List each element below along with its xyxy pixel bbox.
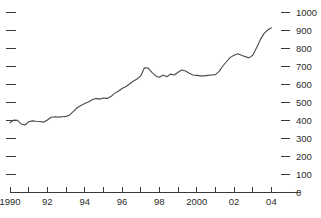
y-tick-label-700: 700	[296, 61, 312, 72]
y-tick-label-800: 800	[296, 43, 312, 54]
x-tick-label-1990: 1990	[0, 196, 21, 207]
x-tick-label-1994: 94	[79, 196, 90, 207]
chart-container: 01002003004005006007008009001000 1990929…	[0, 0, 321, 218]
x-tick-label-1998: 98	[154, 196, 165, 207]
y-tick-label-300: 300	[296, 133, 312, 144]
y-tick-label-500: 500	[296, 97, 312, 108]
x-tick-label-1992: 92	[42, 196, 53, 207]
y-tick-label-200: 200	[296, 151, 312, 162]
x-tick-label-2000: 2000	[186, 196, 207, 207]
line-chart: 01002003004005006007008009001000 1990929…	[0, 0, 321, 218]
y-tick-label-600: 600	[296, 79, 312, 90]
data-series-line	[10, 28, 271, 125]
right-axis-tick-labels: 01002003004005006007008009001000	[296, 7, 317, 198]
x-tick-label-2002: 02	[229, 196, 240, 207]
y-tick-label-1000: 1000	[296, 7, 317, 18]
x-axis-ticks	[10, 187, 271, 192]
x-tick-label-2004: 04	[266, 196, 277, 207]
left-axis-ticks	[6, 12, 16, 174]
x-tick-label-1996: 96	[117, 196, 128, 207]
x-axis-tick-labels: 19909294969820000204	[0, 196, 277, 207]
y-tick-label-900: 900	[296, 25, 312, 36]
right-axis-ticks	[281, 12, 290, 192]
y-tick-label-400: 400	[296, 115, 312, 126]
y-tick-label-100: 100	[296, 169, 312, 180]
